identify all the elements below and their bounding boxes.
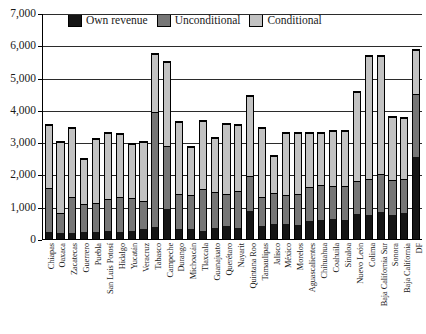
bar-segment-conditional	[152, 54, 158, 112]
x-axis-label-slot: Tabasco	[151, 243, 159, 333]
bar-segment-conditional	[318, 133, 324, 185]
y-axis-tick-label: 1,000	[0, 202, 36, 214]
bar-segment-unconditional	[366, 179, 372, 215]
bar-segment-unconditional	[176, 194, 182, 230]
bar-segment-unconditional	[188, 195, 194, 229]
bar	[258, 127, 266, 239]
x-axis-label-slot: Guerrero	[79, 243, 87, 333]
x-axis-label-slot: Baja California Sur	[376, 243, 384, 333]
bar-segment-unconditional	[57, 213, 63, 233]
bar-segment-own-revenue	[69, 233, 75, 239]
bar-segment-own-revenue	[105, 231, 111, 239]
x-axis-label-slot: Campeche	[162, 243, 170, 333]
bar	[151, 53, 159, 239]
bar	[400, 117, 408, 239]
bar-segment-conditional	[93, 139, 99, 203]
y-axis-tick-label: 4,000	[0, 105, 36, 117]
bar-segment-conditional	[295, 133, 301, 194]
bar-segment-unconditional	[46, 188, 52, 232]
bar-segment-unconditional	[389, 180, 395, 215]
bar-segment-conditional	[247, 96, 253, 176]
bar-segment-unconditional	[271, 193, 277, 224]
x-axis-label-slot: Coahuila	[329, 243, 337, 333]
bar-segment-unconditional	[105, 199, 111, 231]
bar-segment-unconditional	[330, 186, 336, 219]
bar-segment-unconditional	[129, 198, 135, 231]
x-axis-label-slot: Zacatecas	[67, 243, 75, 333]
bar-segment-unconditional	[235, 191, 241, 228]
bar-segment-unconditional	[212, 192, 218, 227]
bar	[282, 132, 290, 239]
bar	[163, 61, 171, 239]
x-axis-label-slot: Chiapas	[44, 243, 52, 333]
bar-segment-own-revenue	[81, 232, 87, 239]
bar	[317, 132, 325, 239]
y-axis-tick-label: 7,000	[0, 8, 36, 20]
y-axis-tick-label: 0	[0, 234, 36, 246]
bar-segment-own-revenue	[140, 229, 146, 239]
bar-segment-own-revenue	[389, 215, 395, 239]
x-axis-label-slot: Colima	[365, 243, 373, 333]
bar	[365, 55, 373, 239]
x-axis-label-slot: Baja California	[400, 243, 408, 333]
bar-segment-own-revenue	[283, 224, 289, 239]
bar-segment-own-revenue	[295, 225, 301, 239]
x-axis-tick-label: DF	[416, 243, 424, 254]
bar-segment-own-revenue	[200, 231, 206, 239]
y-axis-tick-label: 6,000	[0, 40, 36, 52]
x-axis-label-slot: Sonora	[388, 243, 396, 333]
bar-segment-own-revenue	[247, 211, 253, 239]
x-axis-label-slot: México	[281, 243, 289, 333]
x-axis-label-slot: Querétaro	[222, 243, 230, 333]
bar-segment-unconditional	[164, 146, 170, 209]
bar-segment-own-revenue	[223, 226, 229, 239]
bar-segment-conditional	[81, 159, 87, 204]
bar-segment-conditional	[354, 92, 360, 182]
bar-segment-conditional	[235, 125, 241, 191]
bar	[341, 130, 349, 239]
bar	[116, 133, 124, 239]
bar-segment-conditional	[366, 56, 372, 179]
bar-segment-unconditional	[413, 94, 419, 157]
bar-segment-own-revenue	[235, 228, 241, 239]
bar	[128, 143, 136, 239]
bar	[412, 49, 420, 239]
bar-segment-conditional	[401, 118, 407, 179]
bar-segment-own-revenue	[413, 157, 419, 239]
bar-segment-conditional	[342, 131, 348, 186]
bar-segment-unconditional	[283, 195, 289, 224]
bar-segment-unconditional	[354, 181, 360, 214]
bar-segment-own-revenue	[176, 229, 182, 239]
bar-segment-conditional	[140, 142, 146, 201]
x-axis-labels: ChiapasOaxacaZacatecasGuerreroPueblaSan …	[42, 243, 422, 333]
bar	[45, 124, 53, 239]
bar-segment-conditional	[188, 147, 194, 195]
bar-segment-conditional	[57, 142, 63, 214]
bar	[139, 141, 147, 239]
bar	[222, 123, 230, 239]
bar-segment-own-revenue	[188, 229, 194, 239]
bar-segment-conditional	[259, 128, 265, 197]
bar-segment-own-revenue	[57, 233, 63, 239]
x-axis-label-slot: Sinaloa	[341, 243, 349, 333]
bar	[56, 141, 64, 239]
bar-segment-own-revenue	[212, 228, 218, 239]
y-axis-tick-label: 5,000	[0, 73, 36, 85]
bar-segment-unconditional	[140, 201, 146, 230]
x-axis-label-slot: Nayarit	[234, 243, 242, 333]
bar-segment-own-revenue	[259, 226, 265, 239]
bar	[68, 127, 76, 239]
y-axis-tick-label: 3,000	[0, 137, 36, 149]
bar-segment-own-revenue	[318, 220, 324, 239]
bar-segment-conditional	[164, 62, 170, 145]
bar-segment-own-revenue	[378, 212, 384, 239]
x-axis-label-slot: Chihuahua	[317, 243, 325, 333]
bar-segment-own-revenue	[401, 213, 407, 239]
bar-segment-unconditional	[318, 185, 324, 220]
x-axis-label-slot: San Luis Potosí	[103, 243, 111, 333]
bar-segment-own-revenue	[152, 227, 158, 239]
bar-segment-own-revenue	[93, 232, 99, 239]
bar-segment-conditional	[378, 56, 384, 174]
bar	[329, 130, 337, 239]
bar-segment-conditional	[200, 121, 206, 189]
